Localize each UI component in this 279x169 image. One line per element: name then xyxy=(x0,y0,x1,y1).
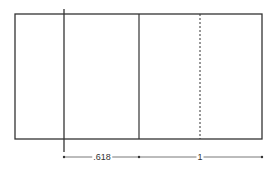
dimension-start-dot xyxy=(63,156,65,158)
dimension-end-dot xyxy=(261,156,263,158)
golden-ratio-diagram xyxy=(0,0,279,169)
label-618: .618 xyxy=(92,152,112,162)
dimension-mid-dot xyxy=(138,156,140,158)
label-1: 1 xyxy=(196,152,203,162)
